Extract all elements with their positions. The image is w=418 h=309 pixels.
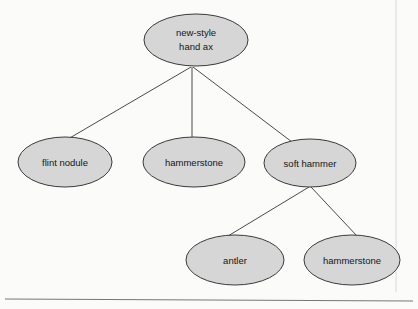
node-new-style-hand-ax[interactable]: new-style hand ax: [144, 14, 248, 66]
diagram-page: new-style hand ax flint nodule hammersto…: [0, 0, 418, 309]
node-label: flint nodule: [42, 157, 88, 168]
edge-soft-hammer-to-antler: [228, 187, 309, 236]
edge-soft-hammer-to-hammerstone: [311, 187, 357, 236]
node-label: hammerstone: [323, 255, 381, 266]
node-label: antler: [223, 255, 247, 266]
node-label-line2: hand ax: [179, 41, 213, 52]
node-label: hammerstone: [165, 157, 223, 168]
node-hammerstone-level1[interactable]: hammerstone: [143, 137, 245, 187]
node-flint-nodule[interactable]: flint nodule: [18, 137, 112, 187]
node-soft-hammer[interactable]: soft hammer: [264, 139, 356, 187]
bottom-rule: [5, 299, 413, 301]
edge-root-to-flint-nodule: [68, 67, 191, 139]
node-label: soft hammer: [284, 158, 337, 169]
node-label-line1: new-style: [176, 27, 216, 38]
tree-diagram: new-style hand ax flint nodule hammersto…: [0, 0, 418, 309]
edge-root-to-soft-hammer: [193, 67, 292, 142]
node-antler[interactable]: antler: [186, 235, 284, 285]
node-hammerstone-level2[interactable]: hammerstone: [304, 235, 400, 285]
